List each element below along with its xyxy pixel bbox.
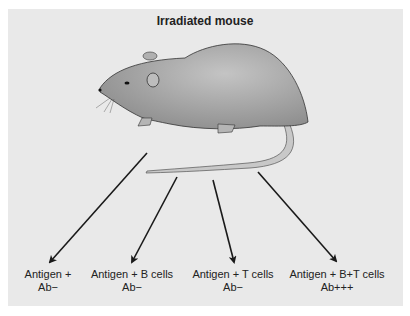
group-label-b-cells: Antigen + B cells Ab− xyxy=(91,268,173,294)
arrow-4 xyxy=(258,172,336,261)
arrow-3 xyxy=(213,180,234,262)
mouse-eye xyxy=(125,81,130,84)
mouse-ear xyxy=(147,73,159,87)
arrow-1 xyxy=(50,153,147,262)
group-label-b-t-cells: Antigen + B+T cells Ab+++ xyxy=(289,268,384,294)
group-label-t-cells: Antigen + T cells Ab− xyxy=(192,268,273,294)
arrow-2 xyxy=(132,177,177,262)
group-label-antigen: Antigen + Ab− xyxy=(25,268,72,294)
mouse-body xyxy=(100,44,308,129)
